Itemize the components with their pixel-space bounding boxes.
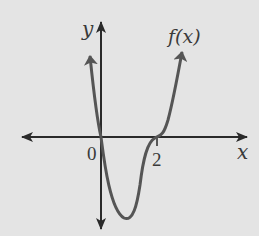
curve-f	[90, 56, 101, 137]
y-axis-label: y	[81, 17, 94, 41]
graph: y x f(x) 0 2	[0, 0, 259, 236]
x-axis-label: x	[237, 140, 248, 164]
curve-label: f(x)	[166, 25, 201, 47]
curve-f-main	[101, 52, 182, 219]
origin-label: 0	[87, 143, 97, 164]
x-tick-label-2: 2	[152, 149, 162, 170]
